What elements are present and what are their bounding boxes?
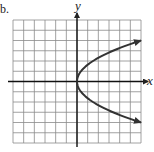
y-axis-label: y bbox=[75, 0, 81, 14]
x-axis-label: x bbox=[147, 73, 153, 89]
coordinate-plane bbox=[0, 0, 154, 152]
